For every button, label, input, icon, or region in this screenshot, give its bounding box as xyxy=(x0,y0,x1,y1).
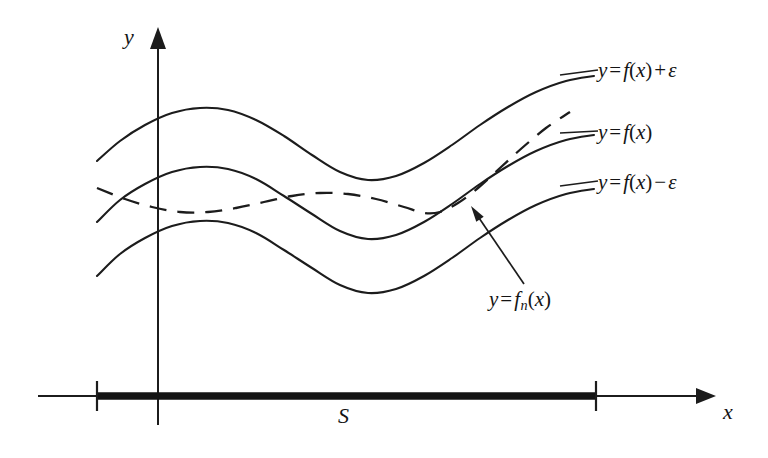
label-close-paren: ) xyxy=(645,120,652,144)
upper-curve-leader xyxy=(560,70,598,75)
label-open-paren: ( xyxy=(629,170,636,194)
fn-arrow-head xyxy=(471,206,484,222)
label-f-minus-epsilon: y=f(x)−ε xyxy=(598,172,676,193)
label-y: y xyxy=(598,58,607,82)
label-f-plus-epsilon: y=f(x)+ε xyxy=(598,60,676,81)
curves-group xyxy=(97,76,594,293)
x-axis-arrowhead xyxy=(696,388,716,404)
label-close-paren: ) xyxy=(544,287,551,311)
curve-f-n-dashed xyxy=(97,112,570,213)
y-axis-arrowhead xyxy=(150,27,166,49)
label-open-paren: ( xyxy=(629,58,636,82)
label-minus: − xyxy=(652,170,668,194)
y-axis-label: y xyxy=(124,26,134,48)
label-y: y xyxy=(489,287,498,311)
label-plus: + xyxy=(652,58,668,82)
label-arg: x xyxy=(535,287,544,311)
label-arg: x xyxy=(636,58,645,82)
curve-f-plus-epsilon xyxy=(97,76,594,180)
label-y: y xyxy=(598,170,607,194)
label-equals: = xyxy=(607,170,623,194)
lower-curve-leader xyxy=(560,181,598,186)
interval-label-s: S xyxy=(338,405,349,427)
label-open-paren: ( xyxy=(629,120,636,144)
label-f-n-of-x: y=fn(x) xyxy=(489,289,551,312)
fn-annotation-arrow xyxy=(471,206,524,284)
label-epsilon: ε xyxy=(668,170,676,194)
middle-curve-leader xyxy=(560,131,598,133)
label-subscript-n: n xyxy=(520,297,528,313)
label-equals: = xyxy=(607,120,623,144)
label-f-of-x: y=f(x) xyxy=(598,122,652,143)
label-equals: = xyxy=(607,58,623,82)
label-open-paren: ( xyxy=(528,287,535,311)
label-arg: x xyxy=(636,170,645,194)
x-axis-label: x xyxy=(723,401,733,423)
axes-group xyxy=(38,27,716,425)
label-equals: = xyxy=(498,287,514,311)
label-arg: x xyxy=(636,120,645,144)
label-epsilon: ε xyxy=(668,58,676,82)
leader-lines xyxy=(560,70,598,186)
uniform-convergence-diagram: y=f(x)+ε y=f(x) y=f(x)−ε y=fn(x) y x S xyxy=(0,0,768,458)
label-y: y xyxy=(598,120,607,144)
